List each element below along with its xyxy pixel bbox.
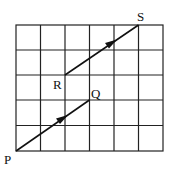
label-r: R [53, 77, 62, 92]
grid [16, 25, 163, 151]
label-q: Q [91, 86, 101, 101]
grid-vector-diagram: P Q R S [0, 0, 171, 171]
label-s: S [137, 9, 144, 24]
label-p: P [4, 152, 11, 167]
